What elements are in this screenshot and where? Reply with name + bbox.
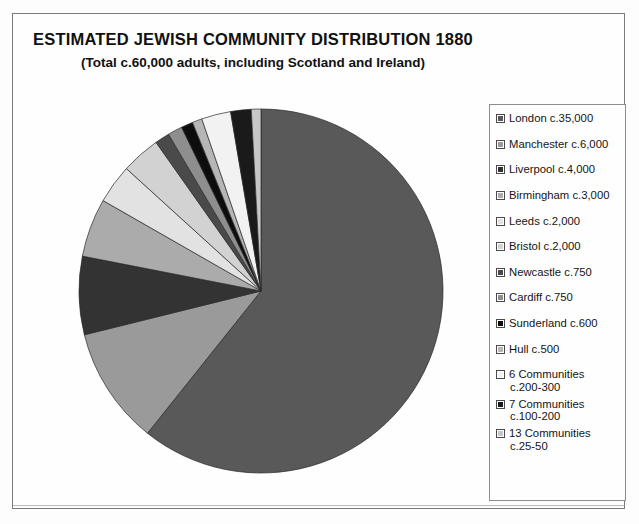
legend-item[interactable]: Sunderland c.600 (496, 317, 621, 330)
legend-item[interactable]: Leeds c.2,000 (496, 215, 621, 228)
legend-swatch-cardiff (496, 293, 505, 302)
legend-item-label: Newcastle c.750 (509, 266, 592, 279)
plot-area (13, 14, 493, 510)
legend-item-label: 13 Communitiesc.25-50 (509, 427, 591, 452)
legend-item-label: Birmingham c.3,000 (509, 189, 609, 202)
legend-item-label: Manchester c.6,000 (509, 138, 608, 151)
legend-item-sublabel: c.100-200 (510, 410, 584, 423)
legend-item-sublabel: c.200-300 (510, 381, 584, 394)
pie-chart (76, 106, 446, 476)
legend-item-label: Sunderland c.600 (509, 317, 598, 330)
legend-swatch-liverpool (496, 165, 505, 174)
legend-item-label: Liverpool c.4,000 (509, 163, 595, 176)
legend-item[interactable]: 13 Communitiesc.25-50 (496, 427, 621, 452)
legend: London c.35,000Manchester c.6,000Liverpo… (489, 104, 626, 501)
legend-item-label: Cardiff c.750 (509, 291, 573, 304)
legend-swatch-13-communities (496, 429, 505, 438)
legend-item-label: Bristol c.2,000 (509, 240, 581, 253)
legend-swatch-leeds (496, 217, 505, 226)
legend-swatch-sunderland (496, 319, 505, 328)
legend-item[interactable]: London c.35,000 (496, 112, 621, 125)
legend-item[interactable]: Bristol c.2,000 (496, 240, 621, 253)
legend-swatch-manchester (496, 140, 505, 149)
legend-item[interactable]: Manchester c.6,000 (496, 138, 621, 151)
legend-item-sublabel: c.25-50 (510, 440, 591, 453)
legend-item[interactable]: Hull c.500 (496, 343, 621, 356)
legend-item-label: Hull c.500 (509, 343, 559, 356)
legend-swatch-birmingham (496, 191, 505, 200)
legend-item[interactable]: 7 Communitiesc.100-200 (496, 398, 621, 423)
legend-item[interactable]: 6 Communitiesc.200-300 (496, 368, 621, 393)
legend-item[interactable]: Cardiff c.750 (496, 291, 621, 304)
legend-item-label: Leeds c.2,000 (509, 215, 580, 228)
legend-item[interactable]: Newcastle c.750 (496, 266, 621, 279)
legend-swatch-bristol (496, 242, 505, 251)
legend-item-label: London c.35,000 (509, 112, 593, 125)
legend-item[interactable]: Liverpool c.4,000 (496, 163, 621, 176)
baseline-rule (13, 505, 624, 506)
legend-swatch-hull (496, 345, 505, 354)
chart-frame: ESTIMATED JEWISH COMMUNITY DISTRIBUTION … (12, 13, 625, 509)
legend-swatch-london (496, 114, 505, 123)
legend-swatch-7-communities (496, 400, 505, 409)
legend-swatch-6-communities (496, 370, 505, 379)
legend-item-label: 6 Communitiesc.200-300 (509, 368, 584, 393)
legend-swatch-newcastle (496, 268, 505, 277)
legend-item[interactable]: Birmingham c.3,000 (496, 189, 621, 202)
legend-item-label: 7 Communitiesc.100-200 (509, 398, 584, 423)
